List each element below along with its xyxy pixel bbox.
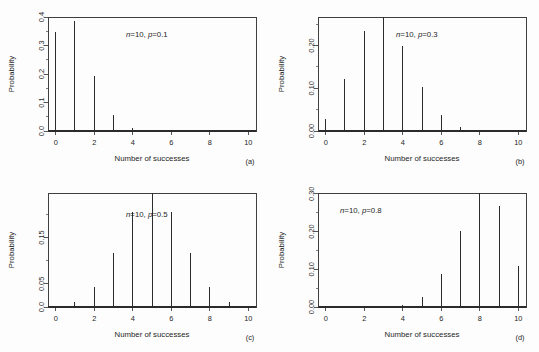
y-tick-label: 0.15: [37, 230, 46, 244]
panel-c: 02468100.00.050.15ProbabilityNumber of s…: [0, 176, 269, 352]
y-axis: 0.00.050.15: [37, 214, 48, 312]
y-tick-label: 0.30: [307, 187, 316, 201]
x-tick-label: 4: [401, 138, 405, 147]
x-tick-label: 6: [439, 314, 443, 323]
y-tick-label: 0.0: [37, 302, 46, 312]
x-tick-label: 6: [439, 138, 443, 147]
panel-label: (c): [246, 333, 255, 342]
x-tick-label: 10: [514, 138, 522, 147]
x-tick-label: 8: [208, 138, 212, 147]
panel-label: (a): [245, 157, 254, 166]
x-tick-label: 8: [208, 314, 212, 323]
x-tick-label: 2: [362, 138, 366, 147]
x-tick-label: 0: [54, 314, 58, 323]
annotation-parameters: n=10, p=0.3: [396, 30, 438, 39]
x-axis-title: Number of successes: [385, 154, 460, 163]
x-tick-label: 0: [324, 138, 328, 147]
x-tick-label: 8: [478, 138, 482, 147]
y-tick-label: 0.4: [37, 12, 46, 22]
x-tick-label: 4: [131, 138, 135, 147]
y-axis: 0.000.100.200.30: [307, 187, 318, 315]
y-tick-label: 0.3: [37, 40, 46, 50]
x-tick-label: 6: [169, 138, 173, 147]
x-tick-label: 10: [244, 138, 252, 147]
plot-b: 02468100.000.100.20ProbabilityNumber of …: [270, 0, 539, 176]
y-tick-label: 0.10: [307, 262, 316, 276]
x-tick-label: 6: [169, 314, 173, 323]
x-tick-label: 2: [92, 314, 96, 323]
y-tick-label: 0.0: [37, 126, 46, 136]
panel-b: 02468100.000.100.20ProbabilityNumber of …: [270, 0, 539, 176]
y-tick-label: 0.2: [37, 69, 46, 79]
plot-d: 02468100.000.100.200.30ProbabilityNumber…: [270, 176, 539, 352]
x-axis: 0246810: [324, 131, 523, 147]
y-axis-title: Probability: [277, 232, 286, 269]
y-axis-title: Probability: [7, 56, 16, 93]
x-tick-label: 10: [514, 314, 522, 323]
panel-label: (b): [515, 157, 524, 166]
annotation-parameters: n=10, p=0.8: [340, 206, 382, 215]
y-tick-label: 0.00: [307, 300, 316, 314]
plot-a: 02468100.00.10.20.30.4ProbabilityNumber …: [0, 0, 269, 176]
plot-c: 02468100.00.050.15ProbabilityNumber of s…: [0, 176, 269, 352]
x-tick-label: 4: [401, 314, 405, 323]
y-axis-title: Probability: [277, 56, 286, 93]
x-axis-title: Number of successes: [385, 330, 460, 339]
x-tick-label: 0: [54, 138, 58, 147]
y-axis-title: Probability: [7, 232, 16, 269]
x-tick-label: 0: [324, 314, 328, 323]
x-tick-label: 2: [92, 138, 96, 147]
x-axis-title: Number of successes: [115, 154, 190, 163]
y-axis: 0.00.10.20.30.4: [37, 12, 48, 136]
x-tick-label: 4: [131, 314, 135, 323]
y-tick-label: 0.20: [307, 224, 316, 238]
y-tick-label: 0.00: [307, 124, 316, 138]
x-axis: 0246810: [324, 307, 523, 323]
y-tick-label: 0.10: [307, 81, 316, 95]
annotation-parameters: n=10, p=0.1: [126, 30, 168, 39]
annotation-parameters: n=10, p=0.5: [126, 210, 168, 219]
x-tick-label: 10: [244, 314, 252, 323]
y-axis: 0.000.100.20: [307, 24, 318, 138]
panel-a: 02468100.00.10.20.30.4ProbabilityNumber …: [0, 0, 269, 176]
y-tick-label: 0.1: [37, 97, 46, 107]
panel-d: 02468100.000.100.200.30ProbabilityNumber…: [270, 176, 539, 352]
y-tick-label: 0.20: [307, 38, 316, 52]
x-axis: 0246810: [54, 307, 253, 323]
x-axis: 0246810: [54, 131, 253, 147]
panel-label: (d): [515, 333, 524, 342]
x-axis-title: Number of successes: [115, 330, 190, 339]
x-tick-label: 8: [478, 314, 482, 323]
y-tick-label: 0.05: [37, 277, 46, 291]
x-tick-label: 2: [362, 314, 366, 323]
binomial-pmf-figure: 02468100.00.10.20.30.4ProbabilityNumber …: [0, 0, 539, 352]
